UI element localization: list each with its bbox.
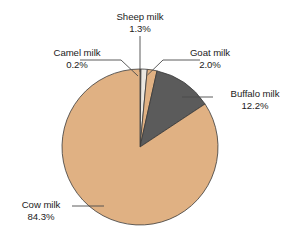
slice-label-buffalo-milk-name: Buffalo milk bbox=[216, 88, 294, 100]
slice-label-camel-milk-value: 0.2% bbox=[40, 59, 114, 71]
slice-label-camel-milk: Camel milk 0.2% bbox=[40, 47, 114, 70]
slice-label-cow-milk: Cow milk 84.3% bbox=[8, 199, 74, 222]
slice-label-goat-milk-value: 2.0% bbox=[177, 59, 243, 71]
slice-label-sheep-milk-name: Sheep milk bbox=[105, 11, 175, 23]
slice-label-cow-milk-name: Cow milk bbox=[8, 199, 74, 211]
slice-label-cow-milk-value: 84.3% bbox=[8, 211, 74, 223]
slice-label-sheep-milk-value: 1.3% bbox=[105, 23, 175, 35]
pie-slice-group bbox=[62, 69, 218, 225]
slice-label-buffalo-milk-value: 12.2% bbox=[216, 100, 294, 112]
slice-label-camel-milk-name: Camel milk bbox=[40, 47, 114, 59]
slice-label-goat-milk: Goat milk 2.0% bbox=[177, 47, 243, 70]
slice-label-sheep-milk: Sheep milk 1.3% bbox=[105, 11, 175, 34]
pie-chart: Sheep milk 1.3% Camel milk 0.2% Goat mil… bbox=[0, 0, 296, 244]
slice-label-buffalo-milk: Buffalo milk 12.2% bbox=[216, 88, 294, 111]
slice-label-goat-milk-name: Goat milk bbox=[177, 47, 243, 59]
